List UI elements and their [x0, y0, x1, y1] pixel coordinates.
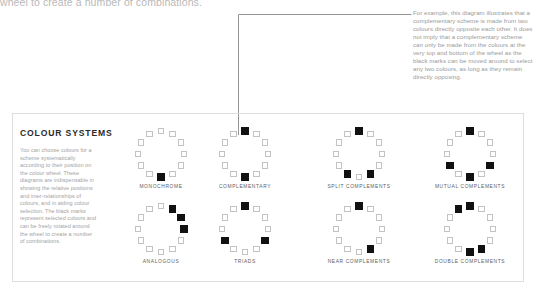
colour-marker[interactable] [478, 206, 485, 213]
colour-marker[interactable] [444, 151, 451, 158]
colour-marker-selected[interactable] [367, 170, 375, 178]
colour-marker[interactable] [230, 206, 237, 213]
colour-marker[interactable] [135, 226, 142, 233]
colour-marker[interactable] [135, 151, 142, 158]
colour-marker-selected[interactable] [367, 245, 375, 253]
colour-marker[interactable] [169, 171, 176, 178]
colour-marker[interactable] [138, 214, 145, 221]
colour-marker[interactable] [138, 162, 145, 169]
colour-marker[interactable] [262, 162, 269, 169]
colour-marker[interactable] [230, 131, 237, 138]
colour-wheel-mutual-complements: MUTUAL COMPLEMENTS [427, 128, 513, 189]
colour-marker-selected[interactable] [261, 237, 269, 245]
colour-marker-selected[interactable] [180, 225, 188, 233]
colour-marker-selected[interactable] [241, 202, 249, 210]
colour-marker-selected[interactable] [486, 162, 494, 170]
colour-marker-selected[interactable] [177, 214, 185, 222]
colour-marker[interactable] [379, 226, 386, 233]
colour-marker[interactable] [146, 246, 153, 253]
colour-marker[interactable] [367, 131, 374, 138]
colour-marker[interactable] [344, 206, 351, 213]
colour-marker[interactable] [222, 139, 229, 146]
colour-marker[interactable] [444, 226, 451, 233]
colour-marker[interactable] [178, 237, 185, 244]
colour-marker[interactable] [265, 151, 272, 158]
colour-marker[interactable] [230, 246, 237, 253]
colour-marker[interactable] [333, 226, 340, 233]
colour-marker[interactable] [379, 151, 386, 158]
colour-marker[interactable] [265, 226, 272, 233]
colour-marker[interactable] [253, 206, 260, 213]
colour-marker[interactable] [376, 162, 383, 169]
colour-marker[interactable] [169, 246, 176, 253]
colour-marker-selected[interactable] [455, 205, 463, 213]
colour-marker[interactable] [262, 214, 269, 221]
colour-marker[interactable] [344, 246, 351, 253]
colour-marker[interactable] [487, 214, 494, 221]
colour-marker[interactable] [356, 174, 363, 181]
colour-marker[interactable] [253, 131, 260, 138]
colour-marker[interactable] [222, 214, 229, 221]
colour-marker[interactable] [455, 246, 462, 253]
colour-marker[interactable] [336, 214, 343, 221]
colour-marker[interactable] [478, 171, 485, 178]
colour-marker[interactable] [447, 214, 454, 221]
colour-marker-selected[interactable] [344, 170, 352, 178]
colour-marker[interactable] [219, 151, 226, 158]
colour-marker[interactable] [336, 237, 343, 244]
colour-marker[interactable] [146, 171, 153, 178]
colour-marker[interactable] [158, 249, 165, 256]
colour-marker[interactable] [367, 206, 374, 213]
colour-marker[interactable] [158, 203, 165, 210]
colour-marker[interactable] [181, 151, 188, 158]
colour-marker[interactable] [158, 128, 165, 135]
colour-marker[interactable] [169, 131, 176, 138]
colour-marker[interactable] [344, 131, 351, 138]
colour-marker-selected[interactable] [241, 127, 249, 135]
colour-marker[interactable] [138, 237, 145, 244]
colour-marker[interactable] [487, 237, 494, 244]
colour-marker[interactable] [146, 131, 153, 138]
colour-marker[interactable] [230, 171, 237, 178]
colour-marker[interactable] [222, 162, 229, 169]
colour-marker[interactable] [447, 237, 454, 244]
colour-marker[interactable] [138, 139, 145, 146]
colour-marker-selected[interactable] [446, 162, 454, 170]
colour-marker[interactable] [178, 139, 185, 146]
colour-marker[interactable] [146, 206, 153, 213]
colour-marker[interactable] [376, 214, 383, 221]
colour-marker[interactable] [336, 139, 343, 146]
colour-marker[interactable] [219, 226, 226, 233]
colour-marker-selected[interactable] [355, 202, 363, 210]
colour-marker-selected[interactable] [466, 202, 474, 210]
colour-marker-selected[interactable] [466, 248, 474, 256]
colour-marker-selected[interactable] [466, 127, 474, 135]
colour-marker[interactable] [490, 151, 497, 158]
colour-marker[interactable] [447, 139, 454, 146]
colour-marker-selected[interactable] [478, 245, 486, 253]
colour-marker[interactable] [455, 131, 462, 138]
colour-marker[interactable] [333, 151, 340, 158]
colour-marker[interactable] [242, 249, 249, 256]
colour-marker[interactable] [253, 246, 260, 253]
colour-marker-selected[interactable] [466, 173, 474, 181]
colour-marker[interactable] [376, 237, 383, 244]
colour-marker[interactable] [376, 139, 383, 146]
colour-marker[interactable] [178, 162, 185, 169]
wheel-ring [333, 203, 385, 255]
colour-marker[interactable] [336, 162, 343, 169]
colour-marker[interactable] [356, 249, 363, 256]
colour-marker-selected[interactable] [355, 127, 363, 135]
colour-marker-selected[interactable] [157, 173, 165, 181]
colour-marker-selected[interactable] [221, 237, 229, 245]
wheel-label: MONOCHROME [118, 184, 204, 189]
colour-marker[interactable] [455, 171, 462, 178]
colour-marker[interactable] [253, 171, 260, 178]
colour-marker-selected[interactable] [169, 205, 177, 213]
colour-marker[interactable] [490, 226, 497, 233]
colour-marker[interactable] [478, 131, 485, 138]
colour-marker[interactable] [487, 139, 494, 146]
wheel-ring [444, 128, 496, 180]
colour-marker[interactable] [262, 139, 269, 146]
colour-marker-selected[interactable] [241, 173, 249, 181]
